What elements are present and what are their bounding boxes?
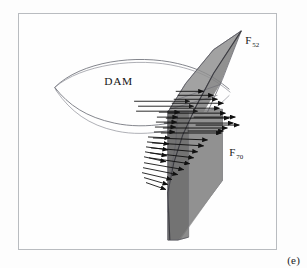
force-upper-symbol: F [245, 34, 251, 46]
figure-root: DAM F 52 F 70 (e) [0, 0, 307, 268]
upper-fin-surface [168, 31, 241, 112]
force-upper-subscript: 52 [252, 41, 259, 49]
force-lower-symbol: F [229, 146, 235, 158]
dam-label-text: DAM [104, 75, 132, 87]
label-force-lower: F 70 [229, 146, 243, 161]
force-lower-subscript: 70 [236, 153, 243, 161]
figure-frame: DAM F 52 F 70 [18, 13, 277, 250]
figure-canvas: DAM F 52 F 70 [19, 14, 276, 249]
label-force-upper: F 52 [245, 34, 259, 49]
figure-caption: (e) [287, 254, 300, 266]
label-dam: DAM [104, 75, 132, 87]
